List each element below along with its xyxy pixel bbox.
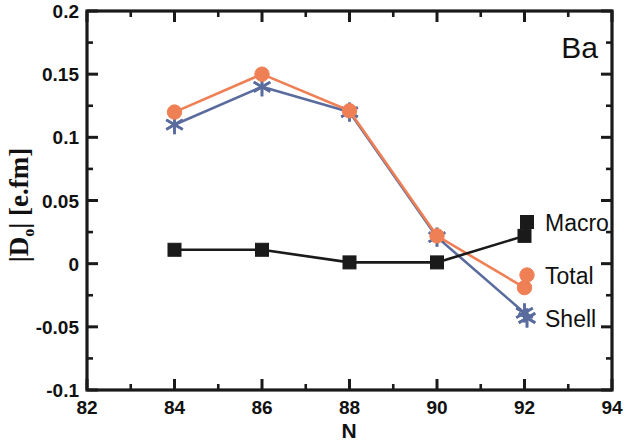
- figure-background: [0, 0, 629, 445]
- y-tick-label: 0.15: [42, 64, 79, 85]
- y-axis-title-main: |D: [4, 237, 34, 262]
- y-tick-label: 0.1: [53, 127, 80, 148]
- y-tick-label: -0.1: [46, 380, 79, 401]
- element-annotation: Ba: [561, 31, 598, 64]
- x-tick-label: 92: [514, 397, 535, 418]
- svg-text:|Do| [e.fm]: |Do| [e.fm]: [4, 148, 37, 262]
- x-tick-label: 90: [426, 397, 447, 418]
- x-tick-label: 84: [164, 397, 186, 418]
- x-axis-title: N: [341, 419, 356, 442]
- y-axis-title-subscript: o: [20, 229, 37, 237]
- chart-svg: 82848688909294 -0.1-0.0500.050.10.150.2 …: [0, 0, 629, 445]
- y-tick-label: 0: [68, 254, 79, 275]
- y-tick-label: 0.05: [42, 191, 79, 212]
- x-tick-label: 86: [251, 397, 272, 418]
- chart-figure: 82848688909294 -0.1-0.0500.050.10.150.2 …: [0, 0, 629, 445]
- legend-label-total: Total: [545, 263, 594, 289]
- x-tick-label: 82: [76, 397, 97, 418]
- x-tick-label: 94: [601, 397, 623, 418]
- x-tick-label: 88: [339, 397, 360, 418]
- y-tick-label: -0.05: [36, 317, 80, 338]
- y-axis-title-tail: | [e.fm]: [4, 148, 34, 229]
- y-tick-label: 0.2: [53, 1, 79, 22]
- y-axis-title: |Do| [e.fm]: [4, 148, 37, 262]
- legend-label-macro: Macro: [545, 210, 609, 236]
- legend-label-shell: Shell: [545, 306, 596, 332]
